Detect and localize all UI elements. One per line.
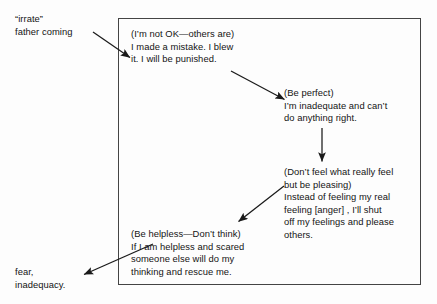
trigger-label: “irrate” father coming (15, 13, 72, 38)
diagram-canvas: “irrate” father coming (I’m not OK—other… (0, 0, 437, 304)
outcome-label: fear, inadequacy. (15, 266, 65, 291)
node-not-ok: (I’m not OK—others are) I made a mistake… (131, 28, 234, 66)
node-be-helpless: (Be helpless—Don’t think) If I am helple… (131, 228, 244, 278)
node-dont-feel: (Don’t feel what really feel but be plea… (284, 166, 394, 242)
node-be-perfect: (Be perfect) I’m inadequate and can’t do… (284, 87, 387, 125)
